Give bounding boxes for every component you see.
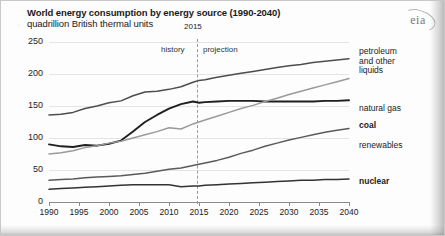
chart-canvas: World energy consumption by energy sourc… — [1, 1, 444, 235]
x-axis-tick-mark — [139, 202, 140, 206]
y-axis-tick-label: 150 — [3, 100, 43, 110]
y-axis-tick-label: 0 — [3, 196, 43, 206]
y-axis-tick-label: 100 — [3, 132, 43, 142]
series-lines — [1, 1, 445, 236]
x-axis-tick-mark — [229, 202, 230, 206]
x-axis-tick-mark — [199, 202, 200, 206]
series-label-petroleum-and-other-liquids: petroleum and other liquids — [359, 47, 397, 76]
series-line-nuclear — [49, 179, 349, 189]
y-axis-tick-label: 50 — [3, 164, 43, 174]
series-label-nuclear: nuclear — [359, 177, 389, 187]
bottom-edge-shadow — [1, 225, 445, 235]
x-axis-tick-mark — [319, 202, 320, 206]
series-label-renewables: renewables — [359, 141, 402, 151]
right-edge-shadow — [430, 1, 444, 236]
x-axis-tick-mark — [349, 202, 350, 206]
series-label-natural-gas: natural gas — [359, 104, 401, 114]
chart-screenshot: World energy consumption by energy sourc… — [0, 0, 445, 236]
y-axis-tick-label: 200 — [3, 68, 43, 78]
series-line-petroleum-and-other-liquids — [49, 59, 349, 115]
x-axis-tick-mark — [259, 202, 260, 206]
y-axis-tick-label: 250 — [3, 36, 43, 46]
x-axis-tick-mark — [79, 202, 80, 206]
x-axis-tick-mark — [289, 202, 290, 206]
x-axis-tick-mark — [49, 202, 50, 206]
series-label-coal: coal — [359, 121, 376, 131]
x-axis-tick-mark — [169, 202, 170, 206]
series-line-natural-gas — [49, 78, 349, 154]
x-axis-tick-label: 2040 — [329, 207, 369, 217]
series-line-renewables — [49, 128, 349, 180]
x-axis-tick-mark — [109, 202, 110, 206]
